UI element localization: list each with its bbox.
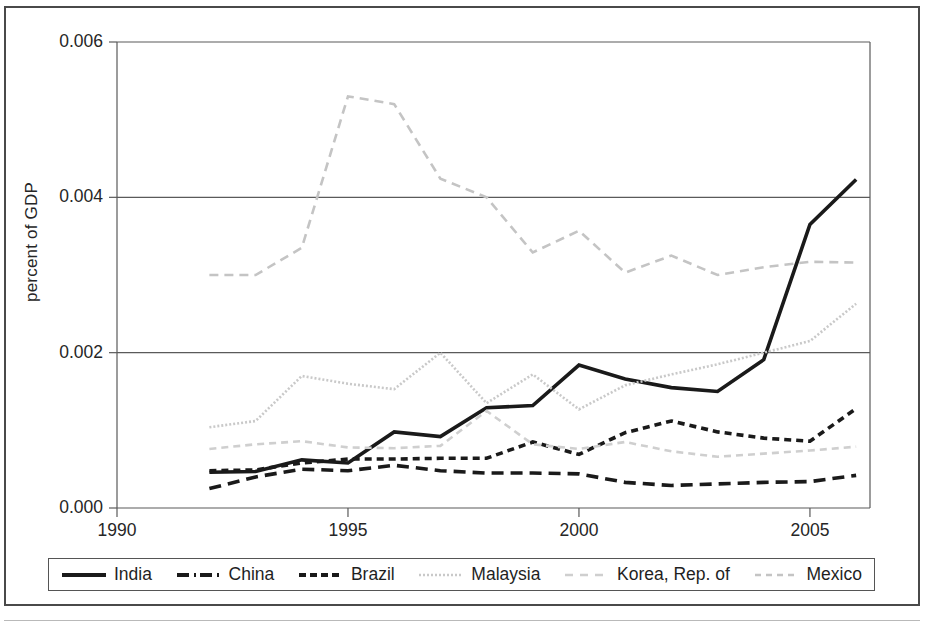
legend-item-malaysia[interactable]: Malaysia [418,566,540,584]
data-series-group [209,96,856,488]
legend-item-china[interactable]: China [176,566,275,584]
legend-label-malaysia: Malaysia [471,566,540,584]
legend-label-brazil: Brazil [351,566,395,584]
legend-item-india[interactable]: India [61,566,152,584]
line-chart-plot [0,0,925,626]
legend-swatch-korea [564,569,610,581]
series-line-brazil [209,409,856,471]
legend-label-mexico: Mexico [807,566,862,584]
legend-item-korea[interactable]: Korea, Rep. of [564,566,730,584]
series-line-china [209,465,856,488]
legend-label-korea: Korea, Rep. of [617,566,730,584]
legend-swatch-india [61,569,107,581]
series-line-malaysia [209,304,856,427]
legend-swatch-mexico [754,569,800,581]
legend-label-india: India [114,566,152,584]
chart-legend: India China Brazil Malaysia Korea, Rep. … [48,558,875,591]
axis-ticks-group [109,42,810,517]
series-line-india [209,179,856,472]
legend-label-china: China [229,566,275,584]
series-line-mexico [209,96,856,275]
legend-item-brazil[interactable]: Brazil [298,566,395,584]
figure-container: percent of GDP 0.006 0.004 0.002 0.000 1… [0,0,925,626]
legend-swatch-china [176,569,222,581]
legend-swatch-brazil [298,569,344,581]
series-line-korea-rep-of [209,411,856,457]
legend-swatch-malaysia [418,569,464,581]
legend-item-mexico[interactable]: Mexico [754,566,862,584]
